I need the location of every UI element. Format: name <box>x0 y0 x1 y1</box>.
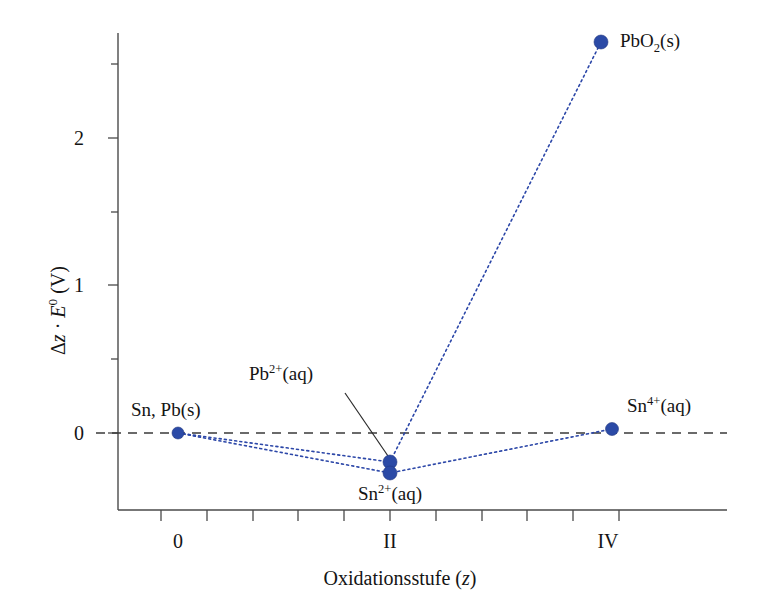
annotation-leader-pb2 <box>345 393 388 456</box>
point-label-sn4-superscript: 4+ <box>647 394 660 408</box>
y-tick-label-0: 0 <box>74 423 84 443</box>
chart-figure: 0 1 2 0 II IV Oxidationsstufe (z) Δz · E… <box>0 0 768 600</box>
point-label-pb2: Pb2+(aq) <box>249 364 313 383</box>
x-axis-ticks <box>161 510 619 521</box>
data-point-sn-pb-s[interactable] <box>172 427 184 439</box>
x-axis-title: Oxidationsstufe (z) <box>324 568 477 588</box>
x-tick-label-iv: IV <box>597 531 618 551</box>
x-axis-title-text: Oxidationsstufe ( <box>324 567 462 589</box>
y-axis-title-dot: · <box>47 323 69 330</box>
point-label-pbo2: PbO2(s) <box>620 31 680 50</box>
y-axis-title-e-superscript: 0 <box>45 299 60 306</box>
y-axis-title-delta: Δ <box>47 342 69 355</box>
y-tick-label-1: 1 <box>74 275 84 295</box>
y-axis-title: Δz · E0 (V) <box>48 266 68 355</box>
point-label-sn2-tail: (aq) <box>391 483 422 504</box>
point-label-sn2-superscript: 2+ <box>378 482 391 496</box>
point-label-sn4: Sn4+(aq) <box>627 396 691 415</box>
y-axis-title-unit: (V) <box>47 266 69 294</box>
data-point-sn2[interactable] <box>383 466 397 480</box>
data-point-pbo2[interactable] <box>594 35 608 49</box>
data-point-sn4[interactable] <box>606 423 619 436</box>
point-label-pb2-base: Pb <box>249 363 269 384</box>
x-tick-label-0: 0 <box>173 531 183 551</box>
x-tick-label-ii: II <box>383 531 396 551</box>
point-label-sn4-tail: (aq) <box>660 395 691 416</box>
chart-plot-area <box>0 0 768 600</box>
point-label-pb2-superscript: 2+ <box>269 362 282 376</box>
x-axis-title-var: z <box>462 567 470 589</box>
point-label-sn2-base: Sn <box>358 483 378 504</box>
point-label-sn2: Sn2+(aq) <box>358 484 422 503</box>
point-label-sn4-base: Sn <box>627 395 647 416</box>
series-line-pb <box>178 42 601 462</box>
point-label-sn-pb-s: Sn, Pb(s) <box>131 400 201 419</box>
point-label-pb2-tail: (aq) <box>282 363 313 384</box>
y-axis-title-e: E <box>47 305 69 317</box>
point-label-pbo2-base: PbO <box>620 30 654 51</box>
x-axis-title-close: ) <box>470 567 477 589</box>
y-axis-title-z: z <box>47 334 69 342</box>
y-axis-ticks <box>108 64 118 433</box>
point-label-pbo2-tail: (s) <box>660 30 680 51</box>
y-tick-label-2: 2 <box>74 128 84 148</box>
